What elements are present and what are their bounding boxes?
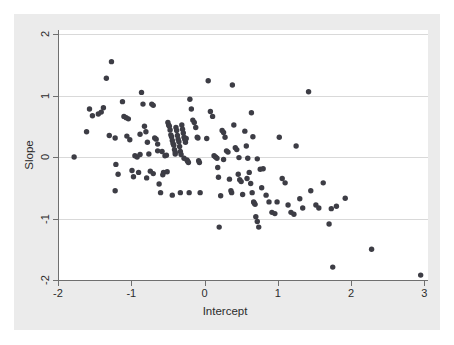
data-point <box>71 154 76 159</box>
data-point <box>112 188 117 193</box>
data-point <box>204 136 209 141</box>
data-point <box>329 206 334 211</box>
data-point <box>249 110 254 115</box>
data-point <box>255 156 260 161</box>
data-point <box>316 205 321 210</box>
data-point <box>240 192 245 197</box>
data-point <box>189 106 194 111</box>
data-point <box>127 137 132 142</box>
data-point <box>90 113 95 118</box>
data-point <box>218 193 223 198</box>
data-point <box>247 170 252 175</box>
data-point <box>109 59 114 64</box>
data-point <box>216 175 221 180</box>
x-tick-label: 0 <box>201 288 207 299</box>
data-point <box>282 180 287 185</box>
data-point <box>195 135 200 140</box>
data-point <box>144 175 149 180</box>
y-axis-title: Slope <box>24 140 36 169</box>
data-point <box>238 179 243 184</box>
data-point <box>143 129 148 134</box>
data-point <box>186 160 191 165</box>
x-tick-label: 1 <box>275 288 281 299</box>
data-point <box>187 96 192 101</box>
data-point <box>153 136 158 141</box>
data-point <box>167 127 172 132</box>
data-point <box>193 125 198 130</box>
data-point <box>236 155 241 160</box>
data-point <box>184 136 189 141</box>
x-tick-label: 2 <box>348 288 354 299</box>
x-tick-label: -2 <box>53 288 63 299</box>
data-point <box>330 264 335 269</box>
data-point <box>227 176 232 181</box>
data-point <box>285 202 290 207</box>
data-point <box>253 214 258 219</box>
scatter-plot-figure: -2-10123 -2-1012 Intercept Slope <box>0 0 454 345</box>
data-point <box>155 148 160 153</box>
data-point <box>230 82 235 87</box>
data-point <box>215 165 220 170</box>
data-point <box>234 147 239 152</box>
data-point <box>136 170 141 175</box>
data-point <box>321 180 326 185</box>
data-points <box>71 59 423 278</box>
data-point <box>113 162 118 167</box>
data-point <box>326 221 331 226</box>
axes <box>59 30 429 281</box>
data-point <box>252 202 257 207</box>
data-point <box>206 78 211 83</box>
data-point <box>266 199 271 204</box>
data-point <box>164 152 169 157</box>
data-point <box>369 247 374 252</box>
data-point <box>151 171 156 176</box>
data-point <box>197 160 202 165</box>
data-point <box>112 135 117 140</box>
data-point <box>214 156 219 161</box>
data-point <box>222 135 227 140</box>
plot-canvas <box>0 0 454 345</box>
data-point <box>145 140 150 145</box>
data-point <box>176 139 181 144</box>
data-point <box>84 129 89 134</box>
data-point <box>225 149 230 154</box>
data-point <box>208 109 213 114</box>
data-point <box>142 124 147 129</box>
x-tick-label: 3 <box>421 288 427 299</box>
data-point <box>242 128 247 133</box>
data-point <box>137 132 142 137</box>
data-point <box>96 111 101 116</box>
data-point <box>244 176 249 181</box>
data-point <box>140 101 145 106</box>
data-point <box>131 174 136 179</box>
data-point <box>255 219 260 224</box>
data-point <box>178 190 183 195</box>
data-point <box>129 168 134 173</box>
data-point <box>272 211 277 216</box>
data-point <box>248 181 253 186</box>
y-tick-label: 1 <box>40 89 51 103</box>
data-point <box>146 151 151 156</box>
data-point <box>418 272 423 277</box>
data-point <box>231 122 236 127</box>
data-point <box>104 76 109 81</box>
data-point <box>186 190 191 195</box>
data-point <box>164 169 169 174</box>
data-point <box>300 205 305 210</box>
data-point <box>210 114 215 119</box>
data-point <box>244 143 249 148</box>
data-point <box>174 128 179 133</box>
x-tick-label: -1 <box>126 288 136 299</box>
data-point <box>334 204 339 209</box>
data-point <box>291 212 296 217</box>
data-point <box>107 133 112 138</box>
y-tick-label: -1 <box>40 212 51 226</box>
data-point <box>120 99 125 104</box>
data-point <box>343 196 348 201</box>
data-point <box>181 156 186 161</box>
data-point <box>192 120 197 125</box>
data-point <box>297 196 302 201</box>
y-tick-label: 0 <box>40 150 51 164</box>
data-point <box>263 192 268 197</box>
data-point <box>173 151 178 156</box>
